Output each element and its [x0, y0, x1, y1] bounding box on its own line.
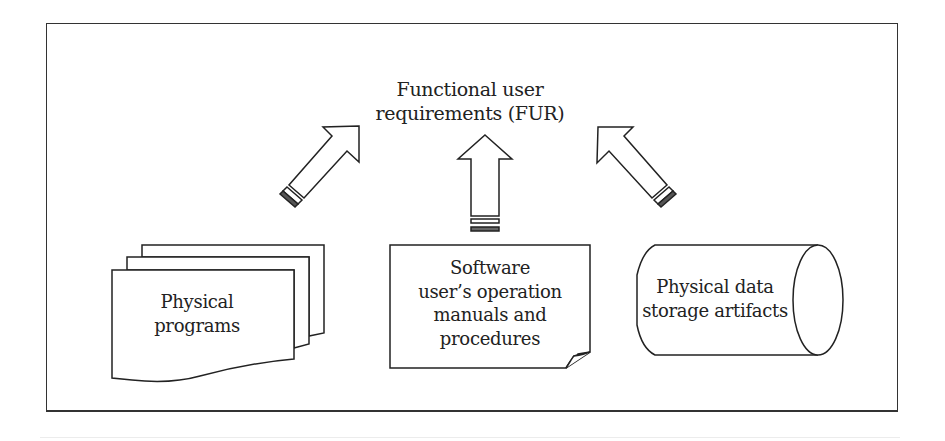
physical-programs-label: Physical programs: [132, 290, 262, 338]
arrow-storage-to-fur: [597, 127, 676, 207]
software-manuals-label: Software user’s operation manuals and pr…: [400, 256, 580, 350]
arrow-manuals-to-fur: [458, 135, 512, 231]
software-manuals-line-4: procedures: [400, 327, 580, 351]
fur-title-line-2: requirements (FUR): [370, 101, 570, 125]
data-storage-label: Physical data storage artifacts: [640, 275, 790, 323]
software-manuals-line-3: manuals and: [400, 303, 580, 327]
fur-title: Functional user requirements (FUR): [370, 77, 570, 125]
data-storage-line-2: storage artifacts: [640, 299, 790, 323]
fur-title-line-1: Functional user: [370, 77, 570, 101]
data-storage-line-1: Physical data: [640, 275, 790, 299]
physical-programs-line-2: programs: [132, 314, 262, 338]
arrow-programs-to-fur: [280, 126, 359, 207]
physical-programs-line-1: Physical: [132, 290, 262, 314]
software-manuals-line-1: Software: [400, 256, 580, 280]
software-manuals-line-2: user’s operation: [400, 280, 580, 304]
